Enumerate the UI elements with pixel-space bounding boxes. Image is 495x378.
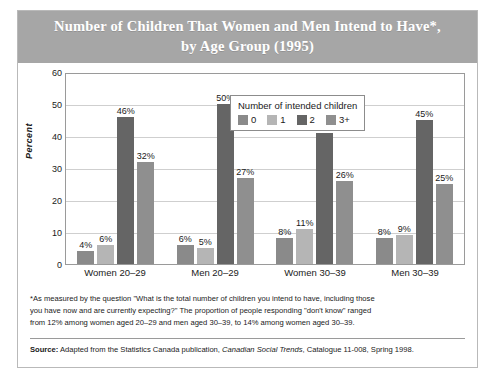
- bar[interactable]: [296, 229, 313, 264]
- bar-slot: 8%: [376, 74, 393, 264]
- bar-value-label: 26%: [336, 170, 354, 180]
- footnote-line-2: you have now and are currently expecting…: [30, 305, 465, 317]
- bar-group: 8%9%45%25%: [365, 74, 465, 264]
- legend-swatch: [238, 115, 248, 125]
- bar[interactable]: [77, 251, 94, 264]
- x-axis-label: Women 30–39: [265, 267, 365, 278]
- bar[interactable]: [276, 238, 293, 264]
- x-axis-label: Men 30–39: [365, 267, 465, 278]
- legend-label: 3+: [339, 114, 350, 125]
- source-text-after: , Catalogue 11-008, Spring 1998.: [303, 345, 414, 354]
- bar-group: 4%6%46%32%: [66, 74, 166, 264]
- legend-item[interactable]: 3+: [326, 114, 350, 125]
- bar[interactable]: [237, 178, 254, 264]
- bar-slot: 6%: [177, 74, 194, 264]
- bar-slot: 45%: [416, 74, 433, 264]
- chart-title: Number of Children That Women and Men In…: [40, 17, 455, 56]
- bar-value-label: 9%: [398, 224, 411, 234]
- y-axis-tick: 20: [52, 196, 62, 206]
- bar[interactable]: [137, 162, 154, 264]
- footnote-line-1: *As measured by the question "What is th…: [30, 293, 465, 305]
- chart-legend: Number of intended children 0123+: [230, 95, 365, 131]
- footnote-line-3: from 12% among women aged 20–29 and men …: [30, 317, 465, 329]
- chart-title-line-1: Number of Children That Women and Men In…: [54, 18, 441, 34]
- bar[interactable]: [177, 245, 194, 264]
- source-publication: Canadian Social Trends: [222, 345, 302, 354]
- legend-title: Number of intended children: [238, 100, 357, 111]
- bar[interactable]: [336, 181, 353, 264]
- bar[interactable]: [197, 248, 214, 264]
- x-axis-label: Men 20–29: [165, 267, 265, 278]
- bar-slot: 25%: [436, 74, 453, 264]
- legend-item[interactable]: 0: [238, 114, 256, 125]
- bar-value-label: 27%: [236, 167, 254, 177]
- bar[interactable]: [316, 133, 333, 264]
- legend-item[interactable]: 1: [267, 114, 285, 125]
- bar-value-label: 8%: [278, 227, 291, 237]
- legend-swatch: [267, 115, 277, 125]
- y-axis-tick: 40: [52, 132, 62, 142]
- figure-container: Number of Children That Women and Men In…: [17, 10, 478, 368]
- bar-slot: 5%: [197, 74, 214, 264]
- bar-value-label: 25%: [435, 173, 453, 183]
- y-axis-tick: 60: [52, 68, 62, 78]
- bar[interactable]: [396, 235, 413, 264]
- legend-items: 0123+: [238, 114, 357, 125]
- bar-slot: 46%: [117, 74, 134, 264]
- bar-value-label: 45%: [415, 109, 433, 119]
- y-axis-ticks: 0102030405060: [38, 73, 62, 265]
- y-axis-tick: 30: [52, 164, 62, 174]
- legend-label: 0: [251, 114, 256, 125]
- bar-value-label: 4%: [79, 240, 92, 250]
- source-note: Source: Adapted from the Statistics Cana…: [18, 344, 477, 355]
- bar[interactable]: [436, 184, 453, 264]
- bar[interactable]: [97, 245, 114, 264]
- bar-slot: 4%: [77, 74, 94, 264]
- x-axis-label: Women 20–29: [65, 267, 165, 278]
- legend-swatch: [326, 115, 336, 125]
- y-axis-tick: 50: [52, 100, 62, 110]
- legend-label: 2: [310, 114, 315, 125]
- source-divider: [30, 338, 465, 339]
- bar-slot: 6%: [97, 74, 114, 264]
- legend-swatch: [297, 115, 307, 125]
- y-axis-tick: 0: [57, 260, 62, 270]
- footnote: *As measured by the question "What is th…: [18, 293, 477, 328]
- bar-value-label: 11%: [296, 218, 313, 228]
- y-axis-tick: 10: [52, 228, 62, 238]
- chart-title-line-2: by Age Group (1995): [181, 38, 314, 54]
- chart-title-band: Number of Children That Women and Men In…: [18, 11, 477, 63]
- bar-value-label: 6%: [99, 234, 112, 244]
- source-text-before: Adapted from the Statistics Canada publi…: [58, 345, 222, 354]
- bar-value-label: 6%: [179, 234, 192, 244]
- plot-wrapper: Percent 0102030405060 4%6%46%32%6%5%50%2…: [18, 63, 477, 285]
- x-axis-labels: Women 20–29Men 20–29Women 30–39Men 30–39: [65, 267, 465, 278]
- bar-value-label: 5%: [199, 237, 212, 247]
- bar[interactable]: [117, 117, 134, 264]
- bar-value-label: 46%: [117, 106, 135, 116]
- bar-slot: 9%: [396, 74, 413, 264]
- legend-label: 1: [280, 114, 285, 125]
- bar[interactable]: [376, 238, 393, 264]
- bar-value-label: 8%: [378, 227, 391, 237]
- source-label: Source:: [30, 345, 58, 354]
- bar-value-label: 32%: [137, 151, 155, 161]
- legend-item[interactable]: 2: [297, 114, 315, 125]
- bar-slot: 32%: [137, 74, 154, 264]
- bar[interactable]: [416, 120, 433, 264]
- y-axis-label: Percent: [24, 123, 34, 159]
